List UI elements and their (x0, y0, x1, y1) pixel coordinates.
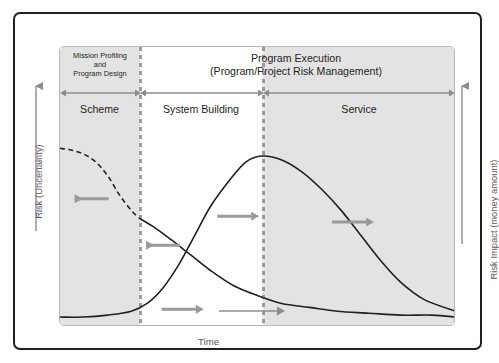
phase-divider-2 (262, 47, 265, 325)
phase-divider-1 (139, 47, 142, 325)
plot-area: Mission Profiling and Program Design Pro… (59, 46, 455, 326)
header-program-execution: Program Execution (Program/Project Risk … (146, 52, 446, 78)
header-mission-profiling: Mission Profiling and Program Design (62, 51, 138, 78)
y2-axis-label: Risk Impact (money amount) (488, 140, 499, 300)
phase-label-scheme: Scheme (60, 103, 139, 115)
phase-label-system-building: System Building (140, 103, 262, 115)
y-axis-label: Risk (Uncertainty) (33, 112, 44, 252)
figure-frame: Mission Profiling and Program Design Pro… (13, 12, 482, 350)
shaded-region-scheme (60, 47, 140, 325)
shaded-region-service (263, 47, 454, 325)
phase-label-service: Service (264, 103, 454, 115)
x-axis-label: Time (198, 336, 219, 347)
